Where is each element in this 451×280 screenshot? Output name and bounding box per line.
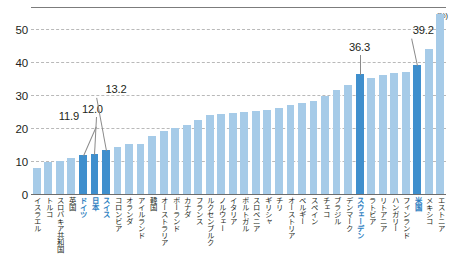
x-label-cell: 日本 — [89, 196, 101, 280]
y-tick-40: 40 — [16, 57, 28, 69]
value-label-ドイツ: 11.9 — [59, 110, 79, 122]
x-label-オーストリア: オーストリア — [287, 196, 295, 280]
bar-8[interactable] — [125, 144, 133, 194]
bar-29[interactable] — [367, 78, 375, 194]
x-label-cell: ノルウェー — [216, 196, 228, 280]
bar-31[interactable] — [390, 73, 398, 194]
bar-cell — [354, 9, 366, 194]
x-label-オランダ: オランダ — [125, 196, 133, 280]
bar-26[interactable] — [333, 90, 341, 194]
x-label-cell: オランダ — [123, 196, 135, 280]
bar-cell — [377, 9, 389, 194]
bar-19[interactable] — [252, 111, 260, 194]
x-axis-category-labels: イスラエルトルコスロバキア共和国英国ドイツ日本スイスコロンビアオランダアイルラン… — [31, 196, 446, 280]
bar-15[interactable] — [206, 115, 214, 194]
bar-cell — [388, 9, 400, 194]
bar-cell — [227, 9, 239, 194]
bar-32[interactable] — [402, 72, 410, 194]
x-label-cell: フランス — [192, 196, 204, 280]
y-tick-20: 20 — [16, 123, 28, 135]
bar-cell — [250, 9, 262, 194]
bar-18[interactable] — [240, 112, 248, 194]
bar-cell — [331, 9, 343, 194]
x-label-日本: 日本 — [90, 196, 98, 280]
top-border-rule — [31, 7, 446, 8]
x-label-ハンガリー: ハンガリー — [390, 196, 398, 280]
x-label-米国: 米国 — [413, 196, 421, 280]
bar-cell — [43, 9, 55, 194]
x-label-ラトビア: ラトビア — [367, 196, 375, 280]
x-label-スロベニア: スロベニア — [252, 196, 260, 280]
bar-27[interactable] — [344, 85, 352, 194]
x-label-チリ: チリ — [275, 196, 283, 280]
x-label-cell: トルコ — [43, 196, 55, 280]
bar-cell — [89, 9, 101, 194]
bar-14[interactable] — [194, 120, 202, 194]
bar-22[interactable] — [287, 105, 295, 194]
x-label-cell: エストニア — [435, 196, 447, 280]
bar-10[interactable] — [148, 136, 156, 194]
bar-2[interactable] — [56, 161, 64, 194]
x-label-cell: ルクセンブルク — [204, 196, 216, 280]
x-axis-line — [31, 194, 446, 195]
bar-4[interactable] — [79, 155, 87, 194]
x-label-ポーランド: ポーランド — [171, 196, 179, 280]
bar-23[interactable] — [298, 103, 306, 194]
x-label-cell: スロベニア — [250, 196, 262, 280]
x-label-cell: オーストラリア — [158, 196, 170, 280]
x-label-スイス: スイス — [102, 196, 110, 280]
x-label-cell: 英国 — [66, 196, 78, 280]
x-label-cell: スイス — [100, 196, 112, 280]
bar-24[interactable] — [310, 101, 318, 194]
bar-cell — [146, 9, 158, 194]
x-label-cell: チェコ — [319, 196, 331, 280]
bar-20[interactable] — [263, 110, 271, 194]
bar-cell — [423, 9, 435, 194]
x-label-cell: チリ — [273, 196, 285, 280]
bar-0[interactable] — [33, 168, 41, 194]
bar-cell — [100, 9, 112, 194]
x-label-cell: リトアニア — [377, 196, 389, 280]
bar-7[interactable] — [114, 147, 122, 194]
y-tick-10: 10 — [16, 156, 28, 168]
x-label-ポルトガル: ポルトガル — [240, 196, 248, 280]
bar-cell — [192, 9, 204, 194]
x-label-cell: ベルギー — [296, 196, 308, 280]
bar-30[interactable] — [379, 75, 387, 194]
bar-11[interactable] — [160, 131, 168, 194]
bar-cell — [181, 9, 193, 194]
bar-cell — [412, 9, 424, 194]
bar-34[interactable] — [425, 49, 433, 194]
bar-13[interactable] — [183, 125, 191, 194]
bar-cell — [216, 9, 228, 194]
bar-28[interactable] — [356, 74, 364, 194]
x-label-ルクセンブルク: ルクセンブルク — [206, 196, 214, 280]
bar-33[interactable] — [413, 65, 421, 195]
bar-25[interactable] — [321, 96, 329, 194]
x-label-スロバキア共和国: スロバキア共和国 — [56, 196, 64, 280]
bar-cell — [77, 9, 89, 194]
bar-cell — [169, 9, 181, 194]
bar-cell — [342, 9, 354, 194]
bar-12[interactable] — [171, 128, 179, 194]
x-label-ギリシャ: ギリシャ — [263, 196, 271, 280]
bar-5[interactable] — [91, 154, 99, 194]
bar-cell — [66, 9, 78, 194]
bar-cell — [400, 9, 412, 194]
x-label-cell: ラトビア — [365, 196, 377, 280]
bar-9[interactable] — [137, 144, 145, 194]
x-label-cell: スウェーデン — [354, 196, 366, 280]
bar-1[interactable] — [44, 162, 52, 194]
bar-cell — [158, 9, 170, 194]
bar-21[interactable] — [275, 108, 283, 194]
x-label-ノルウェー: ノルウェー — [217, 196, 225, 280]
x-label-英国: 英国 — [67, 196, 75, 280]
bar-cell — [204, 9, 216, 194]
x-label-オーストラリア: オーストラリア — [160, 196, 168, 280]
x-label-cell: デンマーク — [342, 196, 354, 280]
bar-3[interactable] — [67, 158, 75, 194]
bar-6[interactable] — [102, 150, 110, 194]
bar-17[interactable] — [229, 113, 237, 194]
bar-16[interactable] — [217, 114, 225, 194]
bar-35[interactable] — [436, 14, 444, 194]
